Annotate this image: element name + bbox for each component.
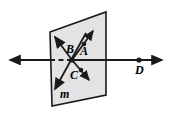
point-b-dot	[69, 57, 74, 62]
plane-parallelogram	[50, 12, 106, 106]
label-d: D	[135, 64, 144, 76]
label-m: m	[60, 88, 69, 100]
label-b: B	[66, 43, 74, 55]
diagram-canvas	[0, 0, 170, 118]
geometry-figure: A B C D m	[0, 0, 170, 118]
label-c: C	[70, 69, 78, 81]
label-a: A	[80, 45, 88, 57]
point-d-dot	[136, 57, 141, 62]
point-c-dot	[79, 68, 84, 73]
